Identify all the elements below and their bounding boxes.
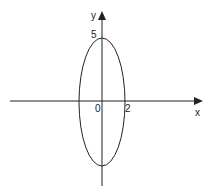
y-axis-arrow-icon xyxy=(98,11,106,20)
ellipse-diagram: y x 0 2 5 xyxy=(0,0,211,189)
origin-label: 0 xyxy=(95,103,101,114)
x-axis-label: x xyxy=(195,107,200,118)
x-intercept-label: 2 xyxy=(125,103,131,114)
x-axis-arrow-icon xyxy=(194,97,203,105)
y-axis-label: y xyxy=(91,10,96,21)
y-intercept-label: 5 xyxy=(91,29,97,40)
